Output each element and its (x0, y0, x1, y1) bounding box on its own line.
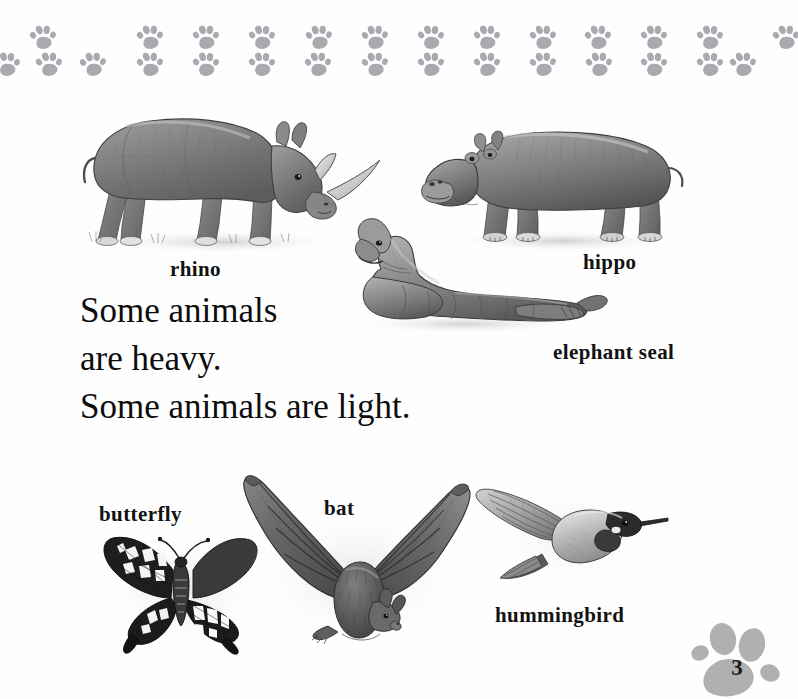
decorative-paw-border (0, 0, 798, 82)
hummingbird-illustration (470, 460, 670, 605)
label-elephant-seal: elephant seal (553, 340, 674, 365)
paw-toe-outer-left (689, 643, 711, 664)
page-number: 3 (724, 655, 750, 681)
paw-border-pattern (0, 0, 798, 82)
paw-toe-inner-left (707, 621, 739, 658)
label-hippo: hippo (583, 250, 636, 275)
rhino-front-horn (327, 160, 380, 200)
rhino-rear-horn (315, 154, 336, 180)
body-text-line-3: Some animals are light. (80, 383, 510, 431)
page-number-badge: 3 (688, 619, 792, 697)
page-content: rhino hippo elephant seal butterfly bat … (0, 82, 798, 699)
body-text-line-1: Some animals (80, 287, 510, 335)
label-bat: bat (324, 496, 354, 521)
label-hummingbird: hummingbird (495, 603, 624, 628)
body-text-line-2: are heavy. (80, 335, 510, 383)
paw-toe-outer-right (757, 661, 782, 685)
rhino-body (94, 119, 283, 203)
bat-illustration (242, 466, 477, 651)
label-butterfly: butterfly (99, 502, 182, 527)
label-rhino: rhino (170, 257, 221, 282)
page-body-text: Some animals are heavy. Some animals are… (80, 287, 510, 431)
